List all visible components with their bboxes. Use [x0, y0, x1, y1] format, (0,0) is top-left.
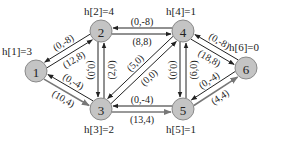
- edge-label-5-6: (4,4): [209, 87, 232, 108]
- node-3: 3h[3]=2: [84, 98, 114, 135]
- edge-label-5-3: (0,-4): [131, 94, 154, 106]
- edge-label-3-2: (2,0): [106, 60, 118, 79]
- flow-network-diagram: (12,8)(0,-8)(10,4)(0,-4)(8,8)(0,-8)(2,0)…: [0, 0, 287, 145]
- edge-label-5-4: (6,0): [188, 60, 200, 79]
- edge-label-2-3: (0,0): [85, 60, 97, 79]
- node-label: 2: [98, 25, 105, 40]
- edge-label-4-3: (5,0): [124, 52, 146, 74]
- edge-label-3-4: (0,0): [138, 67, 160, 89]
- node-5: 5h[5]=1: [166, 98, 196, 135]
- node-height-label: h[4]=1: [166, 5, 196, 17]
- node-6: 6h[6]=0: [229, 41, 260, 79]
- node-2: 2h[2]=4: [84, 5, 115, 42]
- edge-label-4-2: (0,-8): [131, 16, 154, 28]
- edge-label-1-3: (10,4): [50, 88, 77, 111]
- node-label: 5: [180, 103, 187, 118]
- edge-label-3-5: (13,4): [130, 114, 154, 126]
- node-1: 1h[1]=3: [2, 45, 47, 82]
- node-height-label: h[3]=2: [84, 123, 114, 135]
- node-height-label: h[5]=1: [166, 123, 196, 135]
- node-height-label: h[6]=0: [229, 41, 260, 53]
- node-label: 1: [33, 65, 40, 80]
- edge-label-4-5: (0,0): [167, 60, 179, 79]
- node-height-label: h[2]=4: [84, 5, 115, 17]
- node-4: 4h[4]=1: [166, 5, 196, 42]
- edge-label-1-2: (12,8): [61, 48, 88, 71]
- edge-label-2-4: (8,8): [132, 36, 151, 48]
- node-height-label: h[1]=3: [2, 45, 33, 57]
- edge-label-4-6: (18,8): [196, 47, 223, 70]
- node-label: 6: [243, 62, 250, 77]
- edge-labels-layer: (12,8)(0,-8)(10,4)(0,-4)(8,8)(0,-8)(2,0)…: [50, 16, 232, 126]
- node-label: 4: [180, 25, 187, 40]
- node-label: 3: [98, 103, 105, 118]
